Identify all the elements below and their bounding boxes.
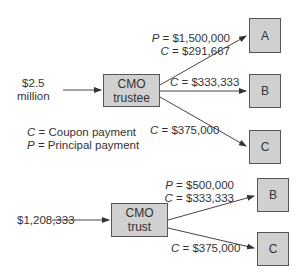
tranche-b-box-top: B xyxy=(249,74,281,108)
cmo-trustee-box: CMO trustee xyxy=(103,74,160,107)
legend: C = Coupon payment P = Principal payment xyxy=(27,126,139,152)
tranche-c-box-bottom: C xyxy=(257,232,289,266)
cmo-trust-box: CMO trust xyxy=(111,203,168,237)
input-amount-top: $2.5 million xyxy=(17,77,50,103)
payment-label-b-top: C = $333,333 xyxy=(170,76,239,89)
payment-label-c-bottom: C = $375,000 xyxy=(171,242,240,255)
tranche-a-box: A xyxy=(249,18,281,53)
input-amount-bottom: $1,208,333 xyxy=(17,214,75,227)
cmo-cash-flow-diagram: $2.5 million CMO trustee A B C P = $1,50… xyxy=(0,0,303,275)
tranche-b-box-bottom: B xyxy=(257,178,289,212)
legend-principal: P = Principal payment xyxy=(27,139,139,152)
payment-label-c-top: C = $375,000 xyxy=(150,124,219,137)
arrow-to-c-top xyxy=(160,97,246,146)
payment-label-b-bottom: P = $500,000 C = $333,333 xyxy=(144,179,234,205)
legend-coupon: C = Coupon payment xyxy=(27,126,139,139)
tranche-c-box-top: C xyxy=(249,130,281,164)
payment-label-a: P = $1,500,000 C = $291,667 xyxy=(140,32,230,58)
